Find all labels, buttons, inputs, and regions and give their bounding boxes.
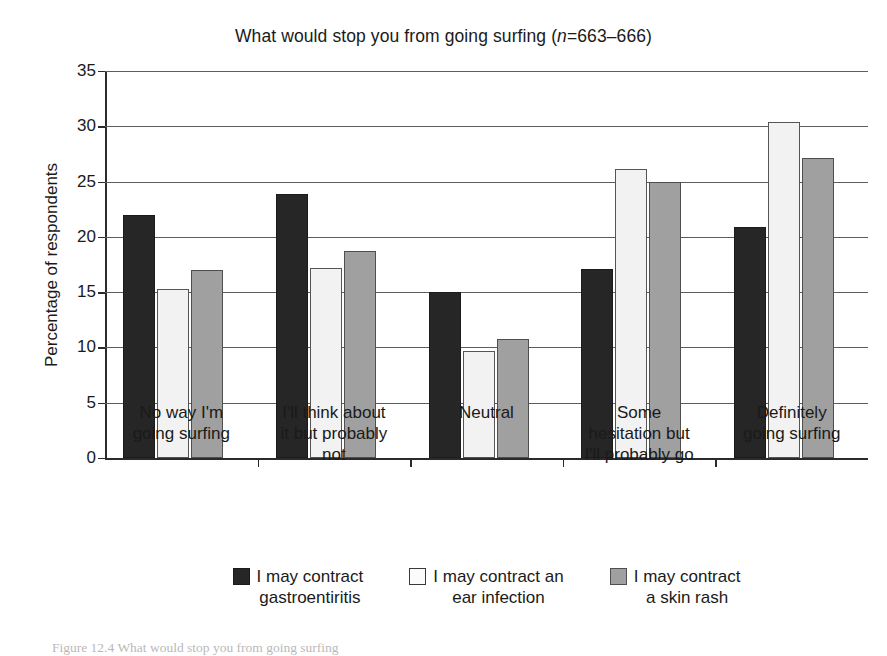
- chart-title-prefix: What would stop you from going surfing (: [235, 26, 557, 46]
- x-axis-category-label: Definitelygoing surfing: [715, 402, 868, 444]
- x-axis-category-label-line: Some: [563, 402, 716, 423]
- chart-title-n-symbol: n: [557, 26, 567, 46]
- y-axis-tick-label: 35: [77, 61, 96, 81]
- y-axis-tick-mark: [98, 403, 105, 404]
- y-axis-tick-mark: [98, 126, 105, 127]
- x-axis-category-label: No way I'mgoing surfing: [105, 402, 258, 444]
- x-axis-category-separator: [410, 458, 411, 467]
- x-axis-category-label-line: it but probably: [258, 423, 411, 444]
- x-axis-category-label-line: I'll think about: [258, 402, 411, 423]
- gridline: [105, 71, 868, 72]
- x-axis-category-label-line: Neutral: [410, 402, 563, 423]
- bar: [497, 339, 529, 458]
- legend-color-swatch: [409, 568, 426, 585]
- x-axis-category-separator: [715, 458, 716, 467]
- y-axis-tick-label: 5: [87, 393, 96, 413]
- y-axis-tick-label: 30: [77, 116, 96, 136]
- y-axis-line: [105, 71, 107, 458]
- x-axis-category-label-line: going surfing: [105, 423, 258, 444]
- x-axis-category-label-line: I'll probably go: [563, 444, 716, 465]
- y-axis-tick-mark: [98, 71, 105, 72]
- x-axis-category-label: I'll think aboutit but probablynot: [258, 402, 411, 465]
- y-axis-tick-label: 10: [77, 337, 96, 357]
- chart-title-suffix: =663–666): [567, 26, 652, 46]
- figure-caption: Figure 12.4 What would stop you from goi…: [52, 640, 852, 656]
- bar: [429, 292, 461, 458]
- legend-color-swatch: [610, 568, 627, 585]
- x-axis-category-label-line: not: [258, 444, 411, 465]
- legend-label: I may contract an ear infection: [433, 566, 563, 608]
- y-axis-tick-label: 0: [87, 448, 96, 468]
- legend-item[interactable]: I may contract an ear infection: [409, 566, 563, 608]
- y-axis-tick-label: 25: [77, 172, 96, 192]
- legend-item[interactable]: I may contract a skin rash: [610, 566, 741, 608]
- x-axis-line: [105, 458, 868, 460]
- y-axis-tick-mark: [98, 458, 105, 459]
- gridline: [105, 126, 868, 127]
- x-axis-category-label-line: going surfing: [715, 423, 868, 444]
- y-axis-tick-label: 15: [77, 282, 96, 302]
- legend-label: I may contract a skin rash: [634, 566, 741, 608]
- y-axis-tick-mark: [98, 237, 105, 238]
- y-axis-tick-mark: [98, 182, 105, 183]
- legend-label: I may contract gastroentiritis: [257, 566, 364, 608]
- chart-legend: I may contract gastroentiritisI may cont…: [105, 566, 868, 608]
- plot-area: 05101520253035: [105, 71, 868, 458]
- legend-item[interactable]: I may contract gastroentiritis: [233, 566, 364, 608]
- x-axis-category-label-line: Definitely: [715, 402, 868, 423]
- gridline: [105, 182, 868, 183]
- y-axis-tick-mark: [98, 292, 105, 293]
- x-axis-category-label: Somehesitation butI'll probably go: [563, 402, 716, 465]
- x-axis-category-label-line: hesitation but: [563, 423, 716, 444]
- chart-title: What would stop you from going surfing (…: [0, 26, 887, 47]
- y-axis-tick-label: 20: [77, 227, 96, 247]
- y-axis-label: Percentage of respondents: [42, 65, 62, 465]
- x-axis-category-label: Neutral: [410, 402, 563, 423]
- legend-color-swatch: [233, 568, 250, 585]
- x-axis-category-label-line: No way I'm: [105, 402, 258, 423]
- y-axis-tick-mark: [98, 347, 105, 348]
